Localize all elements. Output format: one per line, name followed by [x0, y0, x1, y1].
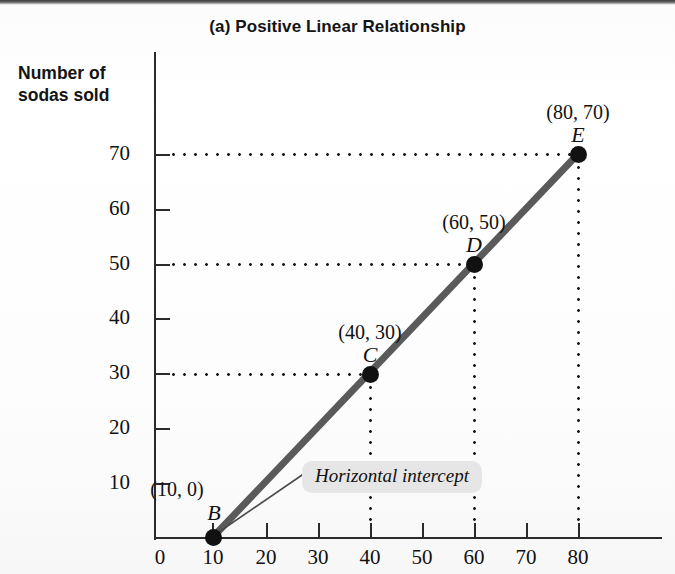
horizontal-intercept-callout: Horizontal intercept: [302, 461, 482, 493]
data-point-e[interactable]: [570, 146, 587, 163]
data-point-d[interactable]: [466, 256, 483, 273]
data-point-e-letter: E: [558, 122, 598, 148]
data-point-c-letter: C: [350, 342, 390, 368]
data-point-d-coord: (60, 50): [414, 211, 534, 234]
data-point-d-letter: D: [454, 232, 494, 258]
data-point-b-letter: B: [194, 500, 234, 526]
data-point-c[interactable]: [362, 366, 379, 383]
data-point-b-coord: (10, 0): [117, 478, 237, 501]
data-point-b[interactable]: [205, 529, 222, 546]
data-point-c-coord: (40, 30): [310, 321, 430, 344]
data-point-e-coord: (80, 70): [518, 101, 638, 124]
